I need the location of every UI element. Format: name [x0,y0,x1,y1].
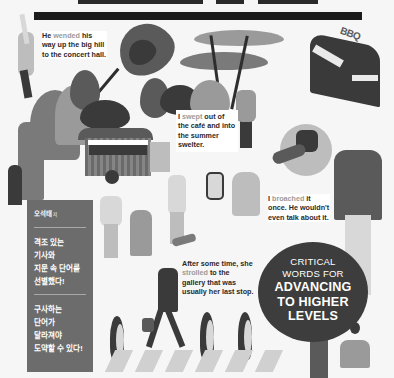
person-striped [206,172,224,200]
bbq-awning [352,75,378,81]
woman-walking-leg [165,308,186,347]
penguin-belly [206,320,214,354]
author-name: 오석태저 [34,208,86,218]
divider [34,294,86,295]
person-walking [240,118,252,148]
divider [34,227,86,228]
badge-line: ADVANCING [258,280,368,295]
badge-line: WORDS FOR [258,268,368,280]
crosswalk-stripe [165,350,193,372]
person-dark [8,165,22,205]
person-patterned-pants [310,338,328,378]
title-rule [34,12,362,20]
crosswalk-stripe [135,350,163,372]
title-fragment [78,0,203,4]
tagline-line: 구사하는 [34,303,86,316]
crosswalk-stripe [195,350,223,372]
tagline-line: 기사와 [34,249,86,262]
person-white-shirt-pants [104,224,118,258]
crosswalk-stripe [255,350,283,372]
tree-canopy [180,52,268,70]
book-cover: BBQ He wended his way up the big hill to… [0,0,394,378]
crosswalk-stripe [225,350,253,372]
person-dog-walker [168,175,186,215]
person-backpack [130,210,152,256]
tagline-line: 격조 있는 [34,236,86,249]
food-truck-cab [150,142,170,172]
bbq-stall [310,33,380,108]
woman-walking [158,268,178,312]
penguin-belly [244,320,252,354]
food-truck-wheel [105,170,119,184]
person-white-shirt [100,196,122,226]
tree-canopy [194,30,284,46]
caption-wended: He wended his way up the big hill to the… [42,31,107,59]
crosswalk-stripe [105,350,133,372]
person-standing-right [334,150,382,220]
food-truck-window [89,145,147,155]
tagline-line: 지문 속 단어를 [34,262,86,275]
title-fragment [258,0,318,4]
caption-broached: I broached it once. He wouldn't even tal… [268,194,330,222]
person-robe [232,172,260,216]
handbag [142,318,154,332]
tagline-line: 도약할 수 있다! [34,342,86,355]
badge-line: LEVELS [258,309,368,324]
tagline-line: 선별했다! [34,275,86,288]
highlight-word: wended [53,31,80,40]
person-seated [340,340,370,368]
tagline-line: 단어가 [34,316,86,329]
tagline-line: 달라져야 [34,329,86,342]
highlight-word: broached [272,194,304,203]
side-panel: 오석태저 격조 있는 기사와 지문 속 단어를 선별했다! 구사하는 단어가 달… [27,200,93,372]
badge-line: CRITICAL [258,256,368,268]
person-walking-coat [236,90,256,122]
badge-line: TO HIGHER [258,295,368,310]
title-fragment [216,0,244,4]
highlight-word: swept [182,112,202,121]
caption-strolled: After some time, she strolled to the gal… [182,259,254,297]
caption-swept: I swept out of the café and into the sum… [176,110,238,152]
title-badge: CRITICAL WORDS FOR ADVANCING TO HIGHER L… [258,242,368,342]
highlight-word: strolled [182,268,208,277]
bush [80,100,130,130]
